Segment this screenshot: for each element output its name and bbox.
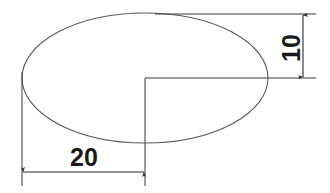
drawing-svg: 10 20: [0, 0, 330, 193]
dimension-label-20: 20: [70, 143, 98, 171]
technical-drawing-canvas: 10 20: [0, 0, 330, 193]
dimension-label-10: 10: [277, 34, 305, 62]
